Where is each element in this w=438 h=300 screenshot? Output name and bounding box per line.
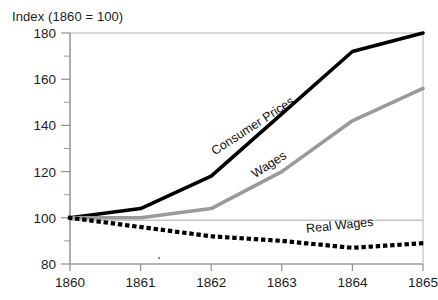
y-axis-tick-labels: 80100120140160180 [33,26,56,272]
y-tick-label: 120 [33,165,56,180]
x-tick-label: 1860 [55,275,85,290]
plot-frame [70,33,423,264]
line-chart-plot: 80100120140160180 1860186118621863186418… [0,0,438,300]
x-axis-tick-labels: 186018611862186318641865 [55,275,438,290]
y-tick-label: 160 [33,72,56,87]
x-tick-label: 1864 [337,275,368,290]
y-axis-ticks [61,33,70,264]
x-axis-ticks [70,264,423,271]
stray-mark [158,257,160,259]
chart-container: Index (1860 = 100) 80100120140160180 186… [0,0,438,300]
x-tick-label: 1861 [126,275,156,290]
x-tick-label: 1863 [267,275,297,290]
x-tick-label: 1862 [196,275,226,290]
y-tick-label: 80 [41,257,56,272]
y-tick-label: 180 [33,26,56,41]
y-tick-label: 140 [33,118,56,133]
x-tick-label: 1865 [408,275,438,290]
y-tick-label: 100 [33,211,56,226]
